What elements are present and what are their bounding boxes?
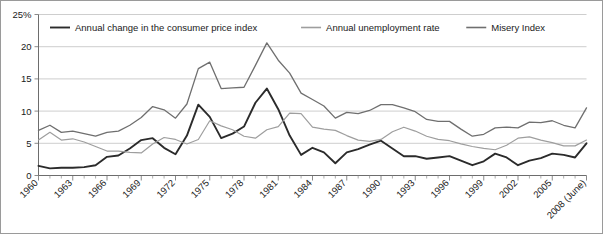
x-axis-label: 1960 xyxy=(17,177,40,200)
x-axis-label: 1990 xyxy=(360,177,383,200)
y-axis-label: 5 xyxy=(26,138,31,149)
chart-canvas: 25%20151050 1960196319661969197219751978… xyxy=(0,0,603,234)
misery-index-chart: 25%20151050 1960196319661969197219751978… xyxy=(0,0,603,234)
gridlines xyxy=(39,15,587,144)
x-axis-label: 1966 xyxy=(86,177,109,200)
y-axis-label: 25% xyxy=(12,9,32,20)
x-axis-label: 1975 xyxy=(188,177,211,200)
y-axis-labels: 25%20151050 xyxy=(12,9,32,181)
x-axis-labels: 1960196319661969197219751978198119841987… xyxy=(17,177,588,221)
y-axis-ticks xyxy=(35,15,39,176)
x-axis-label: 1996 xyxy=(428,177,451,200)
data-series xyxy=(39,43,587,169)
y-axis-label: 10 xyxy=(21,106,32,117)
y-axis-label: 20 xyxy=(21,41,32,52)
x-axis-label: 1969 xyxy=(120,177,143,200)
x-axis-label: 1999 xyxy=(462,177,485,200)
legend-label-0: Annual change in the consumer price inde… xyxy=(75,22,257,33)
y-axis-label: 15 xyxy=(21,73,32,84)
x-axis-label: 1981 xyxy=(257,177,280,200)
series-line-2 xyxy=(39,43,587,136)
x-axis-label: 1993 xyxy=(394,177,417,200)
legend-label-1: Annual unemployment rate xyxy=(326,22,440,33)
x-axis-label: 1984 xyxy=(291,177,314,200)
x-axis-label: 1963 xyxy=(51,177,74,200)
x-axis-label: 1987 xyxy=(325,177,348,200)
series-line-0 xyxy=(39,89,587,169)
x-axis-label: 1972 xyxy=(154,177,177,200)
x-axis-ticks xyxy=(39,176,587,181)
x-axis-label: 1978 xyxy=(223,177,246,200)
legend-label-2: Misery Index xyxy=(491,22,545,33)
x-axis-label: 2002 xyxy=(497,177,520,200)
chart-legend: Annual change in the consumer price inde… xyxy=(50,22,545,33)
x-axis-label: 2005 xyxy=(531,177,554,200)
